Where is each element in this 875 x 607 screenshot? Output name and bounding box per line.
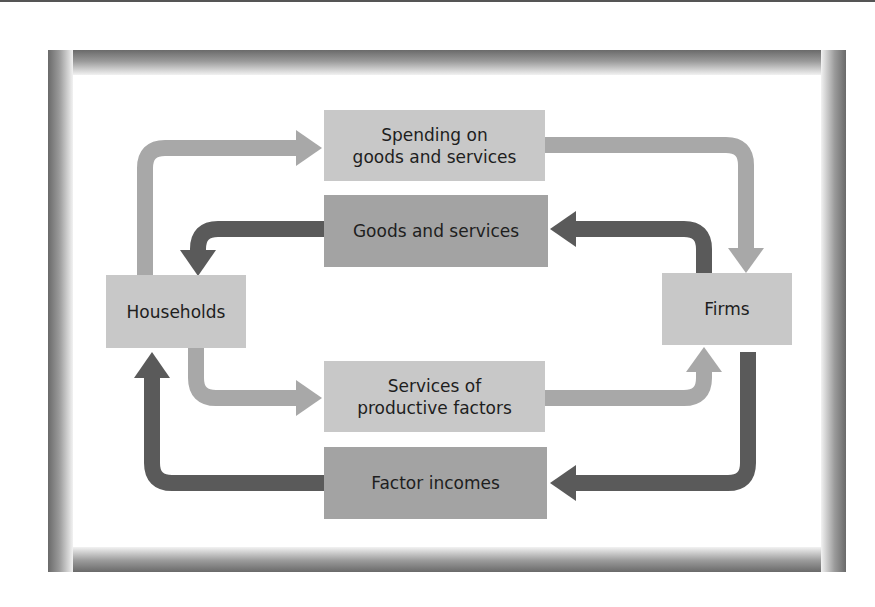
firms-label: Firms [704,298,749,320]
factor-incomes-label: Factor incomes [371,472,500,494]
goods-label: Goods and services [353,220,519,242]
arrow-goods-out-icon [180,229,324,276]
arrow-incomes-in-icon [550,352,748,501]
spending-label-line2: goods and services [353,146,517,168]
arrow-incomes-out-icon [134,352,324,483]
factor-services-flow-box: Services of productive factors [324,361,545,432]
spending-label-line1: Spending on [381,124,487,146]
arrow-services-in-icon [196,348,322,416]
factor-incomes-flow-box: Factor incomes [324,447,547,519]
households-label: Households [127,301,226,323]
firms-node: Firms [662,273,792,345]
spending-flow-box: Spending on goods and services [324,110,545,181]
arrow-spending-in-icon [145,130,322,275]
goods-flow-box: Goods and services [324,195,548,267]
factor-services-label-line2: productive factors [357,397,512,419]
arrow-services-out-icon [545,347,722,398]
arrow-goods-in-icon [550,211,704,273]
households-node: Households [106,275,246,348]
factor-services-label-line1: Services of [388,375,481,397]
arrow-spending-out-icon [545,145,764,273]
